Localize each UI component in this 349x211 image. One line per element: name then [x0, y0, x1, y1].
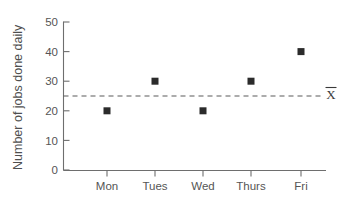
y-tick-label-50: 50 [45, 16, 58, 28]
data-markers [104, 48, 305, 114]
y-axis-tick-labels: 50 40 30 20 10 0 [45, 16, 58, 176]
x-tick-label-fri: Fri [294, 180, 307, 192]
scatter-plot-svg: Number of jobs done daily 50 40 30 20 10… [0, 0, 349, 211]
data-point-fri [298, 48, 305, 55]
y-tick-label-10: 10 [45, 135, 58, 147]
x-tick-label-mon: Mon [96, 180, 118, 192]
y-tick-label-30: 30 [45, 75, 58, 87]
y-tick-label-20: 20 [45, 105, 58, 117]
data-point-tues [152, 78, 159, 85]
y-axis-label-text: Number of jobs done daily [11, 24, 25, 170]
y-tick-label-0: 0 [52, 164, 58, 176]
x-tick-label-tues: Tues [142, 180, 167, 192]
x-axis-ticks [107, 171, 301, 177]
y-tick-label-40: 40 [45, 46, 58, 58]
data-point-mon [104, 107, 111, 114]
mean-label-x: X [326, 87, 336, 102]
x-tick-label-thurs: Thurs [236, 180, 266, 192]
data-point-wed [200, 107, 207, 114]
chart-container: Number of jobs done daily 50 40 30 20 10… [0, 0, 349, 211]
mean-label-group: X [326, 87, 337, 102]
data-point-thurs [248, 78, 255, 85]
x-axis-tick-labels: Mon Tues Wed Thurs Fri [96, 180, 308, 192]
x-tick-label-wed: Wed [191, 180, 214, 192]
y-axis-label: Number of jobs done daily [11, 24, 25, 170]
